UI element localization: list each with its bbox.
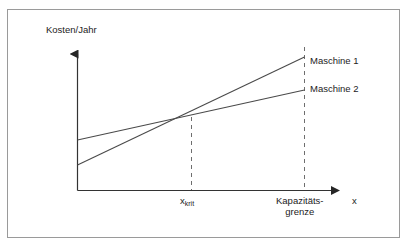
xkrit-axis-label: xkrit	[180, 196, 194, 207]
series-line-maschine-1	[78, 57, 305, 165]
figure-container: Kosten/Jahr Maschine 1 Maschine 2 xkrit …	[0, 0, 408, 248]
legend-label-maschine-1: Maschine 1	[310, 56, 359, 67]
y-axis-label: Kosten/Jahr	[46, 25, 97, 36]
xkrit-subscript-text: krit	[185, 200, 194, 207]
capacity-label-line-1: Kapazitäts-	[276, 195, 324, 206]
legend-label-maschine-2: Maschine 2	[310, 84, 359, 95]
series-line-maschine-2	[78, 90, 305, 140]
capacity-axis-label: Kapazitäts- grenze	[276, 196, 324, 217]
x-axis-label: x	[352, 196, 357, 207]
capacity-label-line-2: grenze	[276, 207, 324, 218]
chart-plot-area	[0, 0, 408, 248]
